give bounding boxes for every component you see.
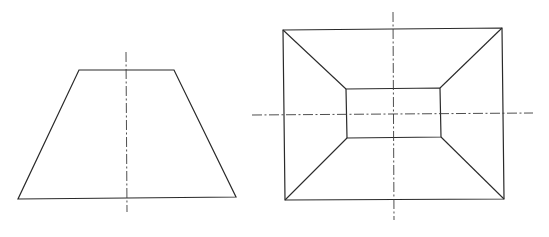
slant-edge-bottom-right (441, 137, 504, 199)
slant-edge-top-left (283, 30, 346, 89)
slant-edge-top-right (440, 28, 502, 88)
front-view (18, 52, 236, 212)
horizontal-centerline (252, 113, 533, 115)
top-view (252, 12, 533, 220)
inner-rectangle (346, 88, 441, 138)
drawing-canvas (0, 0, 549, 237)
vertical-centerline (126, 52, 127, 212)
slant-edge-bottom-left (285, 138, 347, 200)
vertical-centerline (393, 12, 394, 220)
